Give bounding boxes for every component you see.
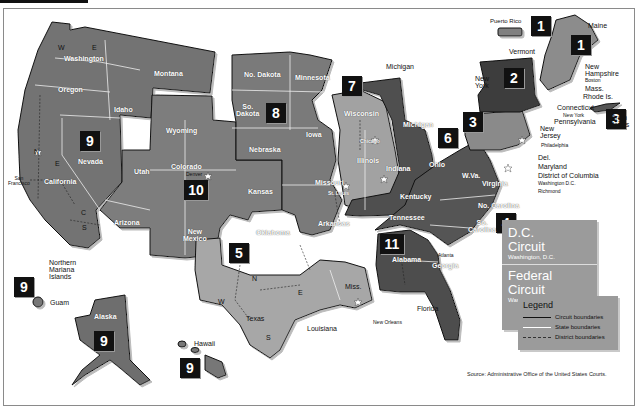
label-louisiana: Louisiana bbox=[307, 325, 337, 332]
label-missouri: Missouri bbox=[315, 179, 344, 186]
label-maine: Maine bbox=[588, 22, 607, 29]
city-new-orleans: New Orleans bbox=[373, 320, 402, 325]
legend-item-district: District boundaries bbox=[523, 332, 618, 342]
circuit-badge-7: 7 bbox=[342, 76, 362, 96]
label-northern-mariana: Northern Mariana Islands bbox=[49, 259, 76, 280]
label-montana: Montana bbox=[154, 70, 183, 77]
label-new-york: New York bbox=[475, 75, 489, 89]
district-marker: N bbox=[34, 148, 39, 155]
city-chicago: Chicago bbox=[360, 139, 380, 144]
city-atlanta: Atlanta bbox=[438, 253, 454, 258]
label-arizona: Arizona bbox=[114, 219, 140, 226]
label-indiana: Indiana bbox=[386, 165, 411, 172]
city-new-york: New York bbox=[563, 113, 584, 118]
legend: Legend Circuit boundaries State boundari… bbox=[518, 296, 618, 350]
circuit-badge-9-mainland: 9 bbox=[80, 131, 100, 151]
circuit-badge-10: 10 bbox=[184, 180, 208, 200]
circuit-badge-3: 3 bbox=[463, 112, 483, 132]
city-san-francisco: San Francisco bbox=[8, 176, 30, 186]
label-mass: Mass. bbox=[585, 85, 604, 92]
puerto-rico-shape bbox=[498, 28, 522, 36]
label-new-hampshire: New Hampshire bbox=[585, 63, 619, 77]
label-new-mexico: New Mexico bbox=[183, 228, 207, 242]
district-marker: E bbox=[298, 289, 303, 296]
label-michigan-up: Michigan bbox=[386, 63, 414, 70]
circuit-badge-1-puerto-rico: 1 bbox=[531, 16, 551, 36]
district-marker: E bbox=[55, 160, 60, 167]
label-kansas: Kansas bbox=[248, 188, 273, 195]
federal-circuit-title-2: Circuit bbox=[508, 283, 597, 297]
federal-circuit-title-1: Federal bbox=[508, 269, 597, 283]
district-marker: S bbox=[266, 334, 271, 341]
label-tennessee: Tennessee bbox=[389, 214, 425, 221]
source-note: Source: Administrative Office of the Uni… bbox=[467, 371, 607, 377]
label-nebraska: Nebraska bbox=[249, 146, 281, 153]
label-wva: W.Va. bbox=[462, 172, 480, 179]
label-oregon: Oregon bbox=[58, 86, 83, 93]
circuit-badge-9-alaska: 9 bbox=[94, 331, 114, 351]
dashed-line-icon bbox=[523, 337, 551, 338]
label-california: California bbox=[44, 178, 76, 185]
label-no-dakota: No. Dakota bbox=[244, 71, 281, 78]
label-alabama: Alabama bbox=[392, 256, 421, 263]
district-marker: W bbox=[218, 298, 225, 305]
guam-shape bbox=[33, 297, 43, 307]
district-marker: N bbox=[252, 275, 257, 282]
legend-item-circuit: Circuit boundaries bbox=[523, 312, 618, 322]
label-dc: District of Columbia bbox=[538, 172, 599, 179]
label-so-carolina: So. Carolina bbox=[468, 219, 496, 233]
white-line-icon bbox=[523, 327, 551, 328]
label-kentucky: Kentucky bbox=[400, 193, 432, 200]
label-illinois: Illinois bbox=[357, 157, 379, 164]
legend-item-state: State boundaries bbox=[523, 322, 618, 332]
dc-circuit-location: Washington, D.C. bbox=[508, 254, 597, 260]
label-alaska: Alaska bbox=[94, 313, 117, 320]
label-oklahoma: Oklahoma bbox=[256, 229, 290, 236]
label-hawaii: Hawaii bbox=[194, 340, 215, 347]
label-iowa: Iowa bbox=[306, 131, 322, 138]
label-vermont: Vermont bbox=[509, 48, 535, 55]
solid-line-icon bbox=[523, 317, 551, 318]
label-rhode-is: Rhode Is. bbox=[583, 93, 613, 100]
dc-circuit-title-2: Circuit bbox=[508, 240, 597, 254]
legend-title: Legend bbox=[523, 300, 618, 310]
label-nevada: Nevada bbox=[78, 158, 103, 165]
label-ohio: Ohio bbox=[429, 161, 445, 168]
label-wyoming: Wyoming bbox=[166, 127, 197, 134]
label-pennsylvania: Pennsylvania bbox=[554, 118, 596, 125]
circuit-badge-1-new-england: 1 bbox=[571, 35, 591, 55]
label-texas: Texas bbox=[246, 315, 264, 322]
label-michigan: Michigan bbox=[403, 121, 433, 128]
city-washington-dc: Washington D.C. bbox=[538, 181, 576, 186]
circuit-badge-9-guam: 9 bbox=[14, 277, 34, 297]
city-richmond: Richmond bbox=[538, 189, 561, 194]
label-guam: Guam bbox=[50, 299, 69, 306]
divider bbox=[502, 264, 597, 265]
city-denver: Denver bbox=[186, 172, 202, 177]
circuit-badge-8: 8 bbox=[266, 103, 286, 123]
label-wisconsin: Wisconsin bbox=[344, 110, 379, 117]
label-connecticut: Connecticut bbox=[557, 104, 594, 111]
label-del: Del. bbox=[538, 154, 550, 161]
district-marker: S bbox=[82, 224, 87, 231]
label-no-carolina: No. Carolina bbox=[478, 202, 519, 209]
label-puerto-rico: Puerto Rico bbox=[490, 18, 521, 24]
city-boston: Boston bbox=[585, 78, 601, 83]
label-arkansas: Arkansas bbox=[318, 220, 350, 227]
dc-circuit-title-1: D.C. bbox=[508, 226, 597, 240]
label-florida: Florida bbox=[417, 305, 438, 312]
label-maryland: Maryland bbox=[538, 163, 567, 170]
district-marker: C bbox=[81, 209, 86, 216]
district-marker: E bbox=[92, 44, 97, 51]
label-so-dakota: So. Dakota bbox=[236, 103, 259, 117]
label-miss: Miss. bbox=[345, 283, 361, 290]
label-utah: Utah bbox=[134, 168, 150, 175]
city-philadelphia: Philadelphia bbox=[541, 143, 568, 148]
circuit-badge-9-hawaii: 9 bbox=[180, 358, 200, 378]
label-georgia: Georgia bbox=[432, 262, 458, 269]
circuit-badge-5: 5 bbox=[229, 243, 249, 263]
label-new-jersey: New Jersey bbox=[540, 125, 561, 139]
circuit-badge-11: 11 bbox=[380, 234, 404, 254]
label-idaho: Idaho bbox=[114, 106, 133, 113]
hawaii-shape bbox=[205, 355, 226, 378]
